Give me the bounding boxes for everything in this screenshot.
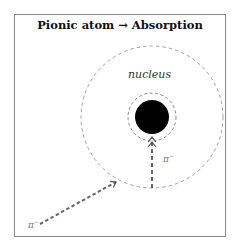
nucleus-label: nucleus (128, 68, 171, 81)
incoming-pion-path (40, 182, 116, 224)
pion-charge: − (169, 152, 174, 159)
nucleus (135, 100, 169, 134)
pionic-atom-diagram (0, 0, 239, 247)
pion-charge: − (34, 218, 39, 225)
incoming-pion-label: π− (28, 218, 39, 230)
inner-pion-label: π− (163, 152, 174, 164)
